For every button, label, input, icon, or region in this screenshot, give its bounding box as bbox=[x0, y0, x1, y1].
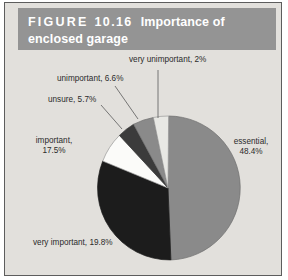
figure-header-line-1: FIGURE10.16Importance of bbox=[28, 12, 276, 29]
pie-label-essential-line-2: 48.4% bbox=[227, 147, 275, 157]
figure-container: FIGURE10.16Importance of enclosed garage bbox=[4, 2, 282, 276]
leader-line-unimportant bbox=[115, 86, 138, 119]
figure-title-line-1: Importance of bbox=[141, 15, 225, 29]
figure-title-line-2: enclosed garage bbox=[28, 32, 128, 46]
pie-label-very-important: very important, 19.8% bbox=[33, 238, 113, 248]
pie-label-very-unimportant: very unimportant, 2% bbox=[129, 55, 206, 65]
pie-label-essential-line-1: essential, bbox=[227, 137, 275, 147]
leader-line-unsure bbox=[101, 105, 122, 129]
pie-label-essential: essential, 48.4% bbox=[227, 137, 275, 156]
pie-label-important-line-1: important, bbox=[27, 136, 81, 146]
figure-header-band: FIGURE10.16Importance of enclosed garage bbox=[18, 8, 276, 50]
pie-chart: very unimportant, 2% unimportant, 6.6% u… bbox=[5, 50, 281, 275]
pie-label-important: important, 17.5% bbox=[27, 136, 81, 155]
figure-header-line-2: enclosed garage bbox=[28, 29, 276, 46]
pie-label-unimportant: unimportant, 6.6% bbox=[57, 74, 123, 84]
figure-label-word: FIGURE bbox=[28, 15, 88, 29]
figure-number: 10.16 bbox=[94, 15, 132, 29]
pie-label-important-line-2: 17.5% bbox=[27, 146, 81, 156]
pie-label-unsure: unsure, 5.7% bbox=[48, 95, 96, 105]
